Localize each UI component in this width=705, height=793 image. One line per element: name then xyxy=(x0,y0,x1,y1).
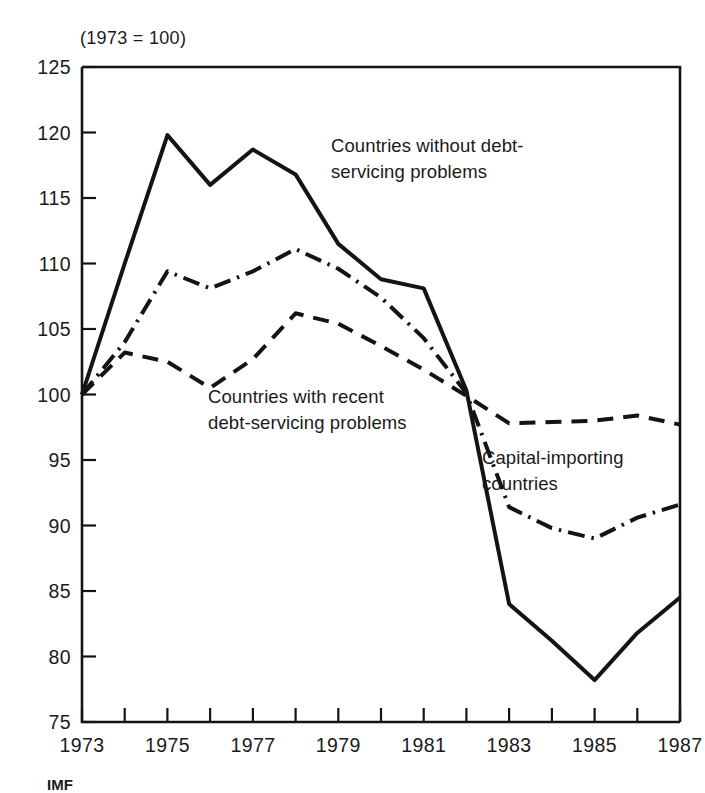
x-axis-label-1977: 1977 xyxy=(230,734,275,756)
y-axis-label-115: 115 xyxy=(39,187,71,209)
y-axis-label-85: 85 xyxy=(49,580,72,602)
line-chart: (1973 = 100) 125 120 115 110 105 100 9 xyxy=(0,0,705,793)
y-axis-label-80: 80 xyxy=(49,646,72,668)
chart-unit-title: (1973 = 100) xyxy=(80,28,186,48)
annotation-line-1: Capital-importing xyxy=(482,447,624,468)
annotation-capital-importing-countries: Capital-importing countries xyxy=(482,447,624,494)
annotation-line-2: servicing problems xyxy=(331,161,487,182)
x-axis-label-1987: 1987 xyxy=(658,734,703,756)
y-axis-label-95: 95 xyxy=(49,449,72,471)
annotation-countries-with-recent-debt-servicing-problems: Countries with recent debt-servicing pro… xyxy=(208,386,407,433)
y-axis-label-90: 90 xyxy=(49,515,72,537)
x-axis-label-1973: 1973 xyxy=(60,734,105,756)
annotation-line-1: Countries without debt- xyxy=(331,135,524,156)
x-axis-label-1983: 1983 xyxy=(487,734,532,756)
x-axis-ticks xyxy=(82,708,680,722)
annotation-countries-without-debt-servicing-problems: Countries without debt- servicing proble… xyxy=(331,135,524,182)
y-axis-label-105: 105 xyxy=(37,318,71,340)
y-axis-label-100: 100 xyxy=(37,384,71,406)
annotation-line-2: debt-servicing problems xyxy=(208,412,407,433)
y-axis-label-75: 75 xyxy=(49,711,72,733)
x-axis-label-1979: 1979 xyxy=(316,734,361,756)
x-axis-label-1975: 1975 xyxy=(145,734,190,756)
annotation-line-2: countries xyxy=(482,473,558,494)
y-axis-label-110: 110 xyxy=(39,253,71,275)
y-axis-label-120: 120 xyxy=(37,122,71,144)
x-axis-label-1981: 1981 xyxy=(401,734,446,756)
series-line-countries-without-debt-servicing-problems xyxy=(82,135,680,680)
annotation-line-1: Countries with recent xyxy=(208,386,384,407)
y-axis-label-125: 125 xyxy=(37,56,71,78)
series-line-countries-with-recent-debt-servicing-problems xyxy=(82,313,680,424)
source-note: IMF xyxy=(47,776,73,793)
y-axis-labels: 125 120 115 110 105 100 95 90 85 80 75 xyxy=(37,56,71,733)
x-axis-labels: 1973 1975 1977 1979 1981 1983 1985 1987 xyxy=(60,734,703,756)
figure-container: (1973 = 100) 125 120 115 110 105 100 9 xyxy=(0,0,705,793)
x-axis-label-1985: 1985 xyxy=(572,734,617,756)
